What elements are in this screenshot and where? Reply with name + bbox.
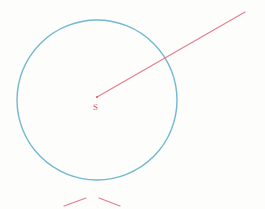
center-point-label: S (93, 103, 98, 112)
main-circle (17, 20, 177, 180)
arc-mark-right-icon (99, 198, 120, 206)
arc-mark-left-icon (64, 198, 86, 206)
center-point-dot (96, 96, 98, 98)
geometry-figure-canvas: S (0, 0, 265, 209)
radius-ray (97, 12, 245, 97)
geometry-diagram (0, 0, 265, 209)
